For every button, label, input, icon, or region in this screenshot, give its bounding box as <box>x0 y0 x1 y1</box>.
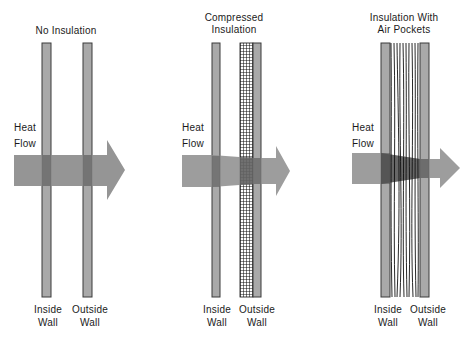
diagram-canvas <box>0 0 472 339</box>
panel-no-insulation <box>14 43 125 297</box>
heat-flow-label: Heat Flow <box>352 122 374 150</box>
outside-wall-label: Outside Wall <box>408 304 448 329</box>
panel-title: Compressed Insulation <box>198 12 270 36</box>
panel-title: No Insulation <box>30 25 102 37</box>
inside-wall-label: Inside Wall <box>32 304 64 329</box>
inside-wall-label: Inside Wall <box>372 304 404 329</box>
panel-title: Insulation With Air Pockets <box>364 12 444 36</box>
inside-wall-label: Inside Wall <box>201 304 233 329</box>
panel-air-pocket-insulation <box>352 43 460 297</box>
heat-flow-arrow-icon <box>182 146 290 196</box>
outside-wall-label: Outside Wall <box>237 304 277 329</box>
heat-flow-label: Heat Flow <box>182 122 204 150</box>
heat-flow-label: Heat Flow <box>14 122 36 150</box>
panel-compressed-insulation <box>182 43 290 297</box>
outside-wall-label: Outside Wall <box>70 304 110 329</box>
